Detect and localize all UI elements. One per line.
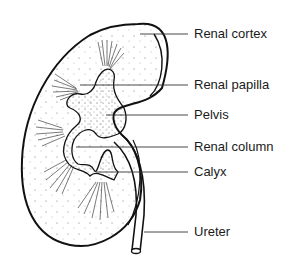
- label-calyx: Calyx: [194, 165, 227, 179]
- kidney-body: [22, 24, 168, 246]
- label-pelvis: Pelvis: [194, 108, 229, 122]
- label-renal-papilla: Renal papilla: [194, 78, 269, 92]
- label-renal-column: Renal column: [194, 140, 274, 154]
- label-renal-cortex: Renal cortex: [194, 27, 267, 41]
- label-ureter: Ureter: [194, 225, 230, 239]
